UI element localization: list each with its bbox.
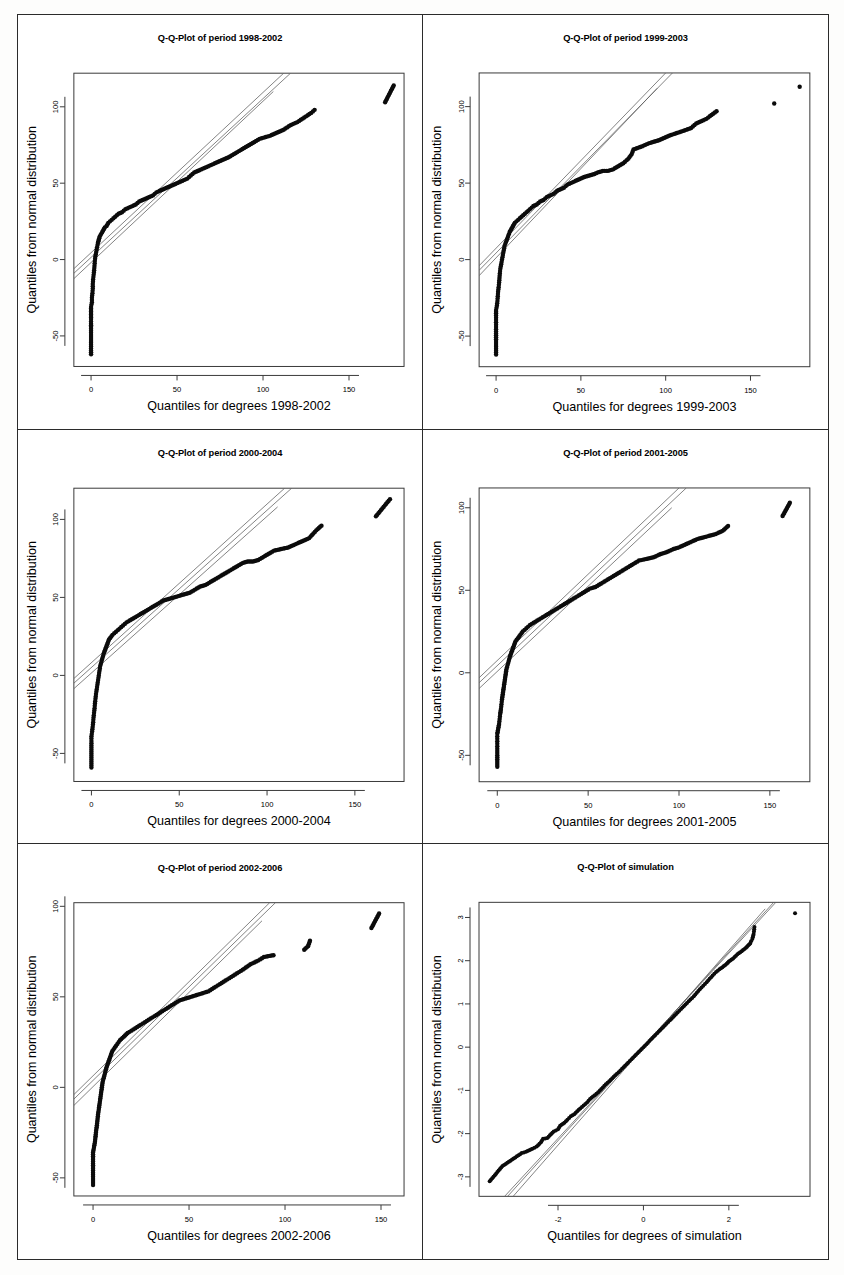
x-tick-label: 2 bbox=[727, 1216, 731, 1225]
y-tick-label: 50 bbox=[51, 179, 60, 187]
plot-area bbox=[479, 73, 802, 357]
data-point bbox=[574, 1111, 578, 1115]
data-point bbox=[500, 255, 504, 259]
y-axis-label: Quantiles from normal distribution bbox=[25, 956, 39, 1144]
data-point bbox=[590, 1096, 594, 1100]
panel-title: Q-Q-Plot of period 1998-2002 bbox=[158, 33, 282, 43]
data-point bbox=[681, 1006, 685, 1010]
data-point bbox=[634, 1053, 638, 1057]
data-point bbox=[500, 699, 504, 703]
plot-frame bbox=[479, 488, 810, 782]
data-point bbox=[91, 722, 95, 726]
reference-line-1 bbox=[74, 73, 291, 273]
data-point bbox=[752, 928, 756, 932]
data-point bbox=[622, 1066, 626, 1070]
data-point bbox=[593, 1093, 597, 1097]
data-point bbox=[158, 1011, 162, 1015]
y-tick-label: 0 bbox=[51, 673, 60, 677]
x-axis-label: Quantiles for degrees 2000-2004 bbox=[147, 814, 330, 828]
data-point bbox=[256, 138, 260, 142]
data-point bbox=[254, 960, 258, 964]
data-point bbox=[94, 689, 98, 693]
data-point bbox=[507, 232, 511, 236]
data-point bbox=[606, 1081, 610, 1085]
data-point bbox=[712, 972, 716, 976]
data-point bbox=[496, 287, 500, 291]
data-point bbox=[618, 1069, 622, 1073]
data-point bbox=[550, 1131, 554, 1135]
x-tick-label: 100 bbox=[261, 800, 274, 809]
y-tick-label: -50 bbox=[457, 331, 466, 342]
data-point bbox=[204, 990, 208, 994]
plot-area bbox=[479, 488, 792, 769]
data-point bbox=[526, 624, 530, 628]
data-point bbox=[684, 1003, 688, 1007]
x-tick-label: 100 bbox=[673, 800, 686, 809]
x-axis-label: Quantiles for degrees 1999-2003 bbox=[553, 400, 737, 414]
data-point bbox=[628, 153, 632, 157]
data-point bbox=[93, 703, 97, 707]
data-point bbox=[725, 525, 729, 529]
x-tick-label: 50 bbox=[577, 386, 585, 395]
y-axis-label: Quantiles from normal distribution bbox=[430, 126, 444, 314]
qq-plot-svg: Q-Q-Plot of period 2000-2004050100150-50… bbox=[18, 430, 422, 844]
y-tick-label: -50 bbox=[457, 749, 466, 760]
x-axis-label: Quantiles for degrees 2001-2005 bbox=[553, 814, 737, 828]
reference-line-1 bbox=[74, 488, 292, 683]
data-point bbox=[677, 1009, 681, 1013]
y-tick-label: 3 bbox=[457, 916, 466, 920]
qq-plot-svg: Q-Q-Plot of period 1999-2003050100150-50… bbox=[423, 15, 828, 429]
data-point bbox=[501, 251, 505, 255]
y-tick-label: -50 bbox=[51, 748, 60, 759]
data-point bbox=[504, 669, 508, 673]
data-point bbox=[92, 270, 96, 274]
x-tick-label: 100 bbox=[257, 385, 270, 394]
data-point bbox=[523, 212, 527, 216]
y-tick-label: 100 bbox=[51, 900, 60, 913]
qq-panel-1: Q-Q-Plot of period 1999-2003050100150-50… bbox=[423, 15, 828, 429]
panel-title: Q-Q-Plot of period 1999-2003 bbox=[563, 33, 688, 43]
data-point bbox=[502, 246, 506, 250]
data-point bbox=[640, 1047, 644, 1051]
data-point bbox=[495, 744, 499, 748]
data-point bbox=[89, 736, 93, 740]
data-point bbox=[98, 666, 102, 670]
data-point bbox=[505, 663, 509, 667]
data-point bbox=[307, 941, 311, 945]
data-point bbox=[116, 628, 120, 632]
data-point bbox=[709, 975, 713, 979]
figure-page: Q-Q-Plot of period 1998-2002050100150-50… bbox=[0, 0, 844, 1275]
data-point bbox=[318, 524, 322, 528]
data-point bbox=[533, 1146, 537, 1150]
data-point bbox=[635, 559, 639, 563]
data-point bbox=[716, 969, 720, 973]
data-point bbox=[787, 502, 791, 506]
x-axis-label: Quantiles for degrees 2002-2006 bbox=[147, 1229, 330, 1243]
data-point bbox=[522, 627, 526, 631]
data-point bbox=[92, 708, 96, 712]
panel-cell-2: Q-Q-Plot of period 2000-2004050100150-50… bbox=[18, 430, 423, 845]
data-point bbox=[690, 996, 694, 1000]
x-tick-label: 50 bbox=[173, 385, 181, 394]
data-point bbox=[625, 1063, 629, 1067]
data-point bbox=[387, 498, 391, 502]
plot-area bbox=[74, 903, 381, 1188]
data-point bbox=[587, 1099, 591, 1103]
data-point bbox=[99, 659, 103, 663]
data-point bbox=[583, 1102, 587, 1106]
data-point bbox=[652, 1035, 656, 1039]
data-point bbox=[152, 1014, 156, 1018]
qq-plot-svg: Q-Q-Plot of period 1998-2002050100150-50… bbox=[18, 15, 422, 429]
data-point bbox=[193, 994, 197, 998]
data-point bbox=[495, 755, 499, 759]
data-point bbox=[113, 1046, 117, 1050]
y-tick-label: 100 bbox=[51, 100, 60, 113]
data-point bbox=[674, 1012, 678, 1016]
y-tick-label: 0 bbox=[51, 1086, 60, 1090]
x-tick-label: 50 bbox=[185, 1215, 193, 1224]
data-point bbox=[91, 1171, 95, 1175]
x-tick-label: 150 bbox=[349, 800, 362, 809]
data-point bbox=[543, 1137, 547, 1141]
data-point bbox=[221, 980, 225, 984]
data-point bbox=[505, 237, 509, 241]
